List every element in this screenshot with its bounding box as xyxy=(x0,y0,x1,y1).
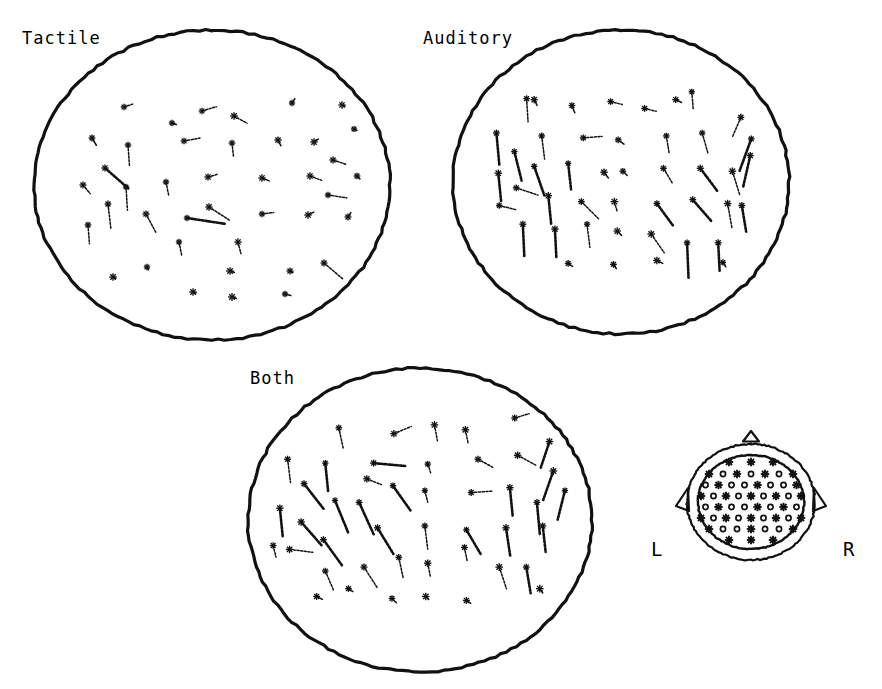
figure-root: Tactile Auditory Both L R xyxy=(0,0,882,689)
sensor-marker xyxy=(163,179,169,185)
electrode-ring xyxy=(711,493,716,498)
sensor-marker xyxy=(699,130,706,137)
sensor-marker xyxy=(321,260,328,267)
sensor-marker xyxy=(672,96,679,103)
electrode-ring xyxy=(768,482,773,487)
sensor-marker xyxy=(332,497,338,503)
sensor-marker xyxy=(502,524,509,531)
vector-tail xyxy=(542,136,545,159)
vector-tail xyxy=(568,163,571,189)
vector-tail xyxy=(359,502,374,534)
sensor-marker xyxy=(258,174,265,181)
electrode-active xyxy=(753,503,761,511)
sensor-marker xyxy=(523,564,530,571)
vector-tail xyxy=(548,196,551,225)
sensor-marker xyxy=(181,138,188,145)
electrode-active xyxy=(772,514,780,522)
vector-tail xyxy=(510,488,513,517)
electrode-active xyxy=(753,481,761,489)
electrode-active xyxy=(722,492,730,500)
electrode-active xyxy=(792,481,800,489)
vector-tail xyxy=(325,571,334,591)
sensor-marker xyxy=(584,221,590,227)
electrode-active xyxy=(747,458,755,466)
montage-right-label: R xyxy=(843,538,854,560)
vector-field xyxy=(79,99,360,301)
sensor-marker xyxy=(689,196,696,203)
sensor-marker xyxy=(729,167,737,175)
sensor-marker xyxy=(578,198,585,205)
vector-field xyxy=(493,89,755,278)
vector-tail xyxy=(700,168,717,191)
sensor-marker xyxy=(79,181,86,188)
sensor-marker xyxy=(715,239,722,246)
vector-tail xyxy=(466,530,481,555)
sensor-marker xyxy=(109,273,116,280)
nose-marker xyxy=(743,431,759,442)
sensor-marker xyxy=(549,467,557,475)
vector-tail xyxy=(534,166,544,195)
sensor-marker xyxy=(614,227,621,234)
electrode-active xyxy=(747,525,755,533)
sensor-marker xyxy=(653,257,661,265)
cap-boundary xyxy=(698,455,805,549)
sensor-marker xyxy=(747,152,754,159)
sensor-marker xyxy=(511,415,518,422)
electrode-active xyxy=(772,492,780,500)
sensor-marker xyxy=(276,505,283,512)
sensor-marker xyxy=(374,524,381,531)
sensor-marker xyxy=(463,597,470,604)
vector-tail xyxy=(425,526,428,549)
vector-tail xyxy=(543,471,553,500)
electrode-ring xyxy=(786,515,791,520)
vector-tail xyxy=(498,173,501,202)
sensor-marker xyxy=(125,142,132,149)
electrode-ring xyxy=(781,482,786,487)
vector-tail xyxy=(537,502,540,534)
electrode-active xyxy=(705,470,713,478)
sensor-marker xyxy=(286,267,293,274)
sensor-marker xyxy=(282,291,288,297)
electrode-ring xyxy=(703,482,708,487)
sensor-marker xyxy=(724,200,732,208)
sensor-marker xyxy=(511,148,517,154)
vector-tail xyxy=(499,567,506,589)
sensor-marker xyxy=(495,169,503,177)
vector-tail xyxy=(496,133,499,165)
sensor-marker xyxy=(620,168,627,175)
head-outline xyxy=(453,30,790,335)
vector-tail xyxy=(209,207,229,220)
electrode-active xyxy=(779,503,787,511)
sensor-marker xyxy=(463,527,469,533)
vector-tail xyxy=(657,204,673,226)
sensor-marker xyxy=(354,173,361,180)
sensor-marker xyxy=(425,461,431,467)
electrode-active xyxy=(714,503,722,511)
panel-tactile xyxy=(12,12,412,362)
sensor-marker xyxy=(338,101,345,108)
sensor-marker xyxy=(493,130,500,137)
electrode-ring xyxy=(720,471,725,476)
sensor-marker xyxy=(738,202,745,209)
sensor-marker xyxy=(684,240,691,247)
electrode-active xyxy=(789,470,797,478)
sensor-marker xyxy=(565,260,572,267)
sensor-marker xyxy=(169,120,175,126)
vector-tail xyxy=(718,243,719,272)
sensor-marker xyxy=(462,426,470,434)
vector-tail xyxy=(514,152,521,181)
electrode-active xyxy=(697,492,705,500)
sensor-marker xyxy=(345,585,352,592)
electrode-active xyxy=(722,514,730,522)
sensor-marker xyxy=(325,192,331,198)
vector-field xyxy=(270,414,568,604)
sensor-marker xyxy=(199,108,206,115)
sensor-marker xyxy=(689,89,695,95)
electrode-active xyxy=(797,514,805,522)
sensor-marker xyxy=(523,95,530,102)
vector-tail xyxy=(478,459,494,468)
sensor-marker xyxy=(545,192,552,199)
sensor-marker xyxy=(345,214,352,221)
vector-tail xyxy=(558,491,565,520)
sensor-marker xyxy=(647,230,655,238)
